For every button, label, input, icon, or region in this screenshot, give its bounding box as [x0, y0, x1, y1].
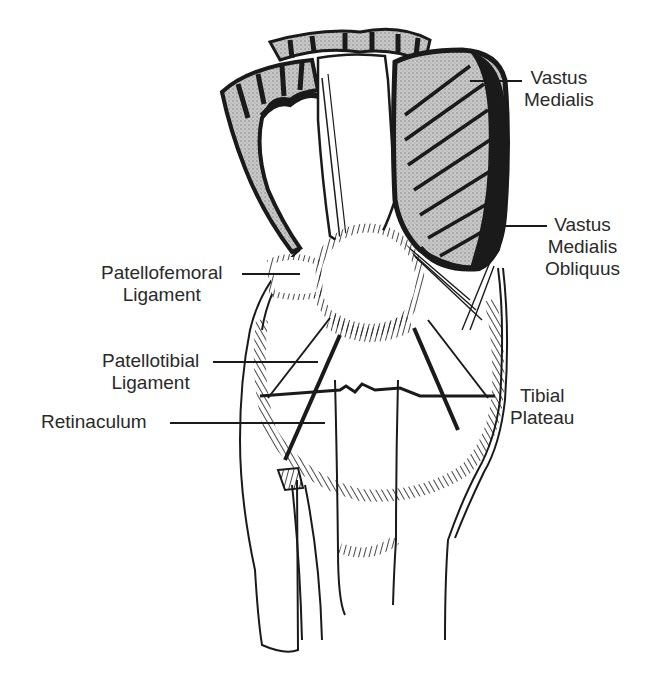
rectus-femoris-tendon	[318, 54, 395, 250]
joint-line	[260, 384, 495, 396]
label-line: Ligament	[102, 372, 199, 394]
label-vastus-medialis: Vastus Medialis	[524, 67, 594, 111]
label-line: Vastus	[524, 67, 594, 89]
label-vastus-medialis-obliquus: Vastus Medialis Obliquus	[545, 214, 620, 280]
patella	[316, 228, 420, 333]
label-patellofemoral-ligament: Patellofemoral Ligament	[101, 262, 222, 306]
label-line: Medialis	[524, 89, 594, 111]
label-line: Vastus	[545, 214, 620, 236]
label-line: Plateau	[510, 407, 574, 429]
label-line: Patellofemoral	[101, 262, 222, 284]
vastus-lateralis	[222, 60, 318, 252]
leader-vastus-medialis	[470, 80, 522, 82]
knee-anatomy-diagram: Vastus Medialis Vastus Medialis Obliquus…	[0, 0, 666, 681]
patellofemoral-ligament	[270, 257, 320, 297]
fibula	[278, 468, 322, 640]
label-retinaculum: Retinaculum	[41, 411, 147, 433]
label-line: Ligament	[101, 284, 222, 306]
vastus-medialis-muscle	[394, 50, 508, 269]
label-line: Obliquus	[545, 258, 620, 280]
leader-patellotibial	[213, 361, 318, 363]
label-tibial-plateau: Tibial Plateau	[510, 385, 574, 429]
leader-vmo	[505, 225, 547, 227]
label-patellotibial-ligament: Patellotibial Ligament	[102, 350, 199, 394]
label-line: Medialis	[545, 236, 620, 258]
leader-patellofemoral	[242, 273, 300, 275]
label-line: Patellotibial	[102, 350, 199, 372]
label-line: Retinaculum	[41, 411, 147, 433]
label-line: Tibial	[510, 385, 574, 407]
leader-retinaculum	[170, 422, 325, 424]
